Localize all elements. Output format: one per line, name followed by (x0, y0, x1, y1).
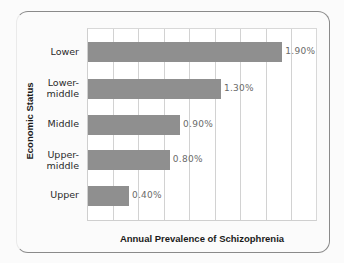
category-label-text: middle (47, 160, 79, 171)
bar-lower-middle (88, 79, 221, 99)
gridline (291, 29, 292, 220)
category-label-text: Lower (51, 46, 79, 57)
bar-middle (88, 115, 180, 135)
category-label-text: Lower- (48, 77, 79, 88)
x-axis-title: Annual Prevalence of Schizophrenia (0, 233, 344, 244)
bar-lower (88, 42, 282, 62)
category-label-text: Upper (50, 189, 79, 200)
category-label-middle: Middle (19, 118, 79, 129)
value-label: 1.30% (224, 83, 254, 93)
category-label-upper: Upper (19, 189, 79, 200)
category-label-text: middle (47, 88, 79, 99)
value-label: 0.40% (132, 190, 162, 200)
category-label-upper-middle: Upper- middle (19, 149, 79, 171)
value-label: 0.80% (173, 154, 203, 164)
value-label: 0.90% (183, 119, 213, 129)
category-label-lower: Lower (19, 46, 79, 57)
category-label-text: Middle (48, 118, 79, 129)
bar-upper-middle (88, 150, 170, 170)
category-label-text: Upper- (47, 149, 79, 160)
bar-upper (88, 186, 129, 206)
category-label-lower-middle: Lower- middle (19, 77, 79, 99)
value-label: 1.90% (285, 46, 315, 56)
